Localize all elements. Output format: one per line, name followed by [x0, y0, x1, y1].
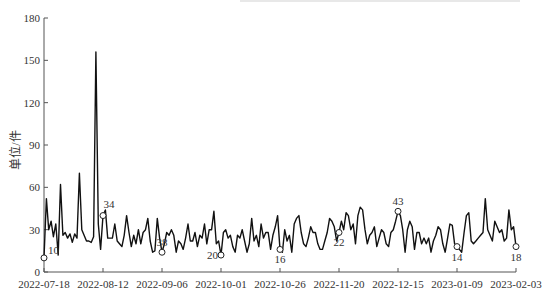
x-tick-label: 2022-10-26 [254, 278, 306, 290]
annotation-marker [277, 246, 283, 252]
x-tick-label: 2022-10-01 [195, 278, 246, 290]
annotation-marker [513, 244, 519, 250]
y-tick-label: 60 [29, 181, 41, 193]
y-tick-label: 180 [24, 12, 41, 24]
annotation-label: 20 [207, 249, 219, 261]
annotation-marker [336, 229, 342, 235]
x-tick-label: 2023-01-09 [431, 278, 483, 290]
y-tick-label: 0 [35, 266, 41, 278]
x-tick-label: 2022-09-06 [136, 278, 188, 290]
annotation-label: 16 [275, 253, 287, 265]
annotation-label: 34 [104, 198, 116, 210]
annotation-marker [218, 252, 224, 258]
annotation-label: 22 [334, 236, 345, 248]
line-chart: 03060901201501802022-07-182022-08-122022… [0, 0, 551, 301]
x-tick-label: 2022-12-15 [372, 278, 424, 290]
y-tick-label: 90 [29, 139, 41, 151]
y-tick-label: 120 [24, 97, 41, 109]
annotation-label: 18 [511, 251, 523, 263]
annotation-marker [454, 244, 460, 250]
annotation-marker [159, 249, 165, 255]
x-tick-label: 2022-07-18 [18, 278, 70, 290]
x-tick-label: 2022-08-12 [77, 278, 128, 290]
annotation-label: 14 [452, 251, 464, 263]
x-tick-label: 2022-11-20 [314, 278, 365, 290]
annotation-marker [100, 213, 106, 219]
annotation-marker [41, 255, 47, 261]
y-tick-label: 30 [29, 224, 41, 236]
series-line [44, 52, 516, 258]
annotation-marker [395, 208, 401, 214]
y-tick-label: 150 [24, 54, 41, 66]
x-tick-label: 2023-02-03 [490, 278, 542, 290]
y-axis-label: 单位/件 [8, 130, 23, 169]
annotation-label: 43 [393, 195, 405, 207]
annotation-label: 38 [157, 236, 169, 248]
annotation-label: 10 [48, 244, 60, 256]
